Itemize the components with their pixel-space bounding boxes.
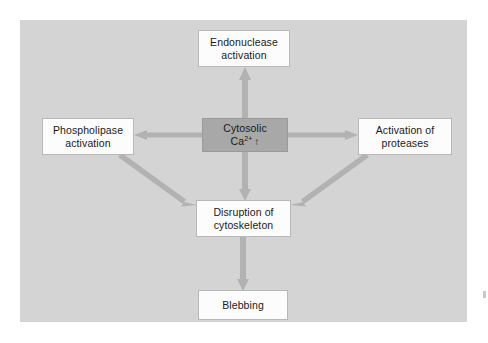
arrow-proteases-to-cytoskeleton bbox=[290, 153, 369, 207]
arrow-ca-to-phospholipase bbox=[134, 130, 202, 140]
diagram-panel: Endonuclease activation Phospholipase ac… bbox=[20, 20, 467, 322]
arrow-ca-to-proteases bbox=[288, 130, 358, 140]
node-disruption-of-cytoskeleton[interactable]: Disruption of cytoskeleton bbox=[196, 200, 291, 237]
calcium-symbol: Ca bbox=[231, 135, 245, 147]
figure-root: Endonuclease activation Phospholipase ac… bbox=[0, 0, 488, 343]
arrow-cytoskeleton-to-blebbing bbox=[237, 237, 249, 291]
node-endonuclease-line-2: activation bbox=[221, 49, 266, 62]
arrow-phospholipase-to-cytoskeleton bbox=[118, 153, 197, 207]
node-phospholipase-line-1: Phospholipase bbox=[53, 124, 123, 137]
increase-arrow-icon: ↑ bbox=[252, 136, 259, 147]
node-proteases-line-2: proteases bbox=[381, 137, 428, 150]
node-cytosolic-calcium[interactable]: Cytosolic Ca2+↑ bbox=[202, 118, 288, 152]
node-activation-of-proteases[interactable]: Activation of proteases bbox=[358, 118, 452, 155]
node-phospholipase-activation[interactable]: Phospholipase activation bbox=[42, 118, 134, 155]
node-blebbing[interactable]: Blebbing bbox=[198, 290, 288, 320]
arrow-ca-to-endonuclease bbox=[239, 67, 251, 119]
page-edge-mark bbox=[483, 291, 486, 298]
node-cytoskeleton-line-1: Disruption of bbox=[213, 206, 273, 219]
node-endonuclease-activation[interactable]: Endonuclease activation bbox=[198, 30, 290, 67]
node-cytosolic-ca-line-2: Ca2+↑ bbox=[231, 135, 260, 148]
node-endonuclease-line-1: Endonuclease bbox=[210, 36, 278, 49]
node-proteases-line-1: Activation of bbox=[376, 124, 435, 137]
node-cytoskeleton-line-2: cytoskeleton bbox=[214, 219, 274, 232]
node-blebbing-line-1: Blebbing bbox=[222, 299, 264, 312]
node-phospholipase-line-2: activation bbox=[65, 137, 110, 150]
arrow-ca-to-cytoskeleton bbox=[239, 152, 251, 201]
node-cytosolic-ca-line-1: Cytosolic bbox=[223, 122, 267, 135]
